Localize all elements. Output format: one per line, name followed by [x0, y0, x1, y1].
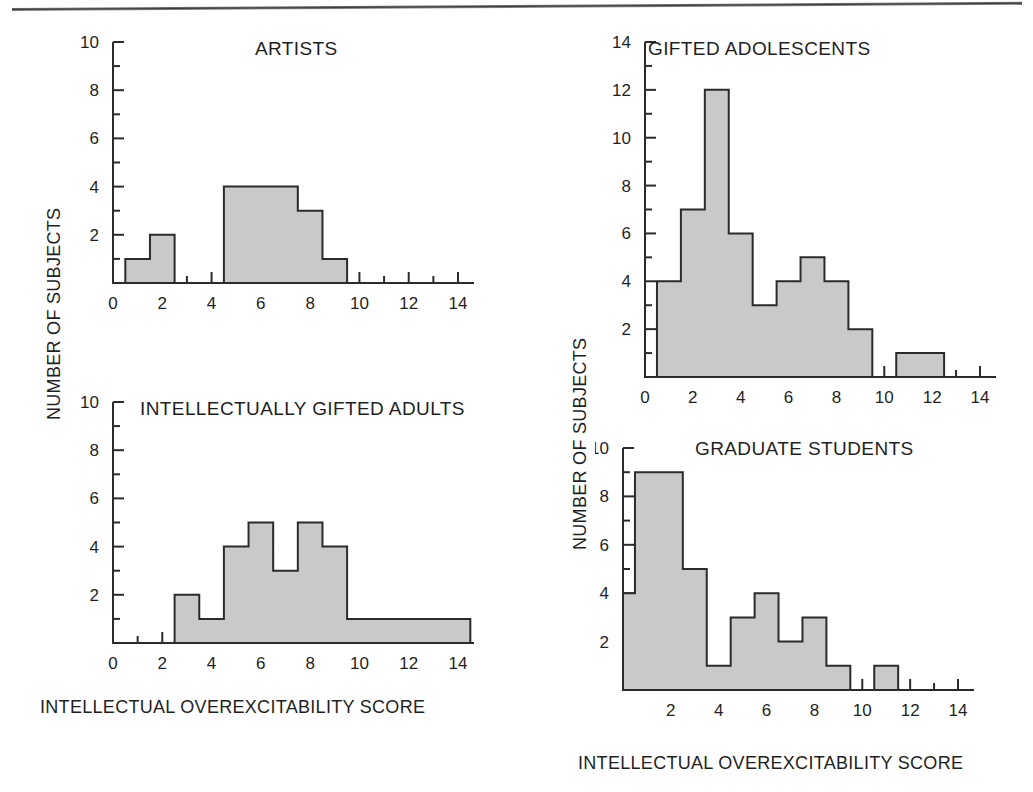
x-tick-label: 12	[923, 388, 942, 407]
y-tick-label: 4	[600, 584, 609, 603]
x-tick-label: 8	[832, 388, 841, 407]
x-tick-label: 2	[158, 294, 167, 313]
x-tick-label: 0	[108, 294, 117, 313]
y-tick-label: 4	[90, 538, 99, 557]
x-tick-label: 8	[305, 654, 314, 673]
y-tick-label: 14	[612, 33, 631, 52]
page-top-rule	[12, 2, 1022, 11]
plot-area: 2468102468101214	[595, 439, 974, 720]
x-tick-label: 2	[688, 388, 697, 407]
chart-svg-graduate-students: 2468102468101214	[595, 430, 1025, 720]
y-axis-title-left: NUMBER OF SUBJECTS	[44, 208, 65, 420]
x-tick-label: 0	[108, 654, 117, 673]
chart-title-gifted-adolescents: GIFTED ADOLESCENTS	[648, 38, 871, 60]
y-tick-label: 6	[90, 129, 99, 148]
x-tick-label: 8	[305, 294, 314, 313]
chart-panel-graduate-students: GRADUATE STUDENTS 2468102468101214	[595, 430, 1025, 720]
x-tick-label: 4	[207, 654, 216, 673]
x-tick-label: 0	[640, 388, 649, 407]
x-tick-label: 2	[158, 654, 167, 673]
y-tick-label: 10	[80, 33, 99, 52]
y-tick-label: 8	[600, 487, 609, 506]
y-tick-label: 8	[622, 177, 631, 196]
y-axis-title-right: NUMBER OF SUBJECTS	[570, 338, 591, 550]
y-tick-label: 4	[622, 272, 631, 291]
x-axis-title-right: INTELLECTUAL OVEREXCITABILITY SCORE	[578, 753, 963, 774]
y-tick-label: 10	[595, 439, 609, 458]
plot-area: 24681002468101214	[80, 33, 474, 313]
y-tick-label: 6	[600, 536, 609, 555]
y-tick-label: 2	[622, 320, 631, 339]
x-tick-label: 6	[762, 701, 771, 720]
chart-title-intellectually-gifted-adults: INTELLECTUALLY GIFTED ADULTS	[140, 398, 465, 420]
y-tick-label: 10	[612, 129, 631, 148]
y-tick-label: 2	[90, 226, 99, 245]
x-tick-label: 2	[666, 701, 675, 720]
x-tick-label: 6	[256, 654, 265, 673]
plot-area: 24681002468101214	[80, 393, 474, 673]
y-tick-label: 2	[90, 586, 99, 605]
x-tick-label: 12	[399, 654, 418, 673]
y-tick-label: 2	[600, 633, 609, 652]
y-tick-label: 4	[90, 178, 99, 197]
chart-svg-artists: 24681002468101214	[80, 30, 520, 320]
y-tick-label: 6	[90, 489, 99, 508]
x-tick-label: 4	[736, 388, 745, 407]
y-tick-label: 10	[80, 393, 99, 412]
y-tick-label: 8	[90, 441, 99, 460]
histogram-bars	[623, 472, 898, 690]
chart-title-artists: ARTISTS	[255, 38, 338, 60]
x-tick-label: 10	[350, 294, 369, 313]
plot-area: 246810121402468101214	[612, 33, 996, 407]
x-tick-label: 14	[949, 701, 968, 720]
chart-panel-gifted-adolescents: GIFTED ADOLESCENTS 246810121402468101214	[595, 30, 1025, 415]
x-tick-label: 12	[399, 294, 418, 313]
y-tick-label: 6	[622, 224, 631, 243]
x-tick-label: 4	[207, 294, 216, 313]
chart-title-graduate-students: GRADUATE STUDENTS	[695, 438, 914, 460]
x-tick-label: 6	[784, 388, 793, 407]
histogram-bars	[175, 523, 471, 644]
x-tick-label: 10	[875, 388, 894, 407]
y-tick-label: 8	[90, 81, 99, 100]
x-tick-label: 14	[449, 294, 468, 313]
x-tick-label: 8	[810, 701, 819, 720]
chart-svg-gifted-adolescents: 246810121402468101214	[595, 30, 1025, 415]
chart-svg-intellectually-gifted-adults: 24681002468101214	[80, 390, 520, 680]
x-tick-label: 4	[714, 701, 723, 720]
x-tick-label: 14	[449, 654, 468, 673]
y-tick-label: 12	[612, 81, 631, 100]
x-tick-label: 14	[971, 388, 990, 407]
x-axis-title-left: INTELLECTUAL OVEREXCITABILITY SCORE	[40, 697, 425, 718]
x-tick-label: 10	[853, 701, 872, 720]
histogram-bars	[125, 187, 347, 283]
chart-panel-intellectually-gifted-adults: INTELLECTUALLY GIFTED ADULTS 24681002468…	[80, 390, 520, 680]
x-tick-label: 6	[256, 294, 265, 313]
x-tick-label: 12	[901, 701, 920, 720]
chart-panel-artists: ARTISTS 24681002468101214	[80, 30, 520, 320]
x-tick-label: 10	[350, 654, 369, 673]
histogram-bars	[657, 90, 944, 377]
